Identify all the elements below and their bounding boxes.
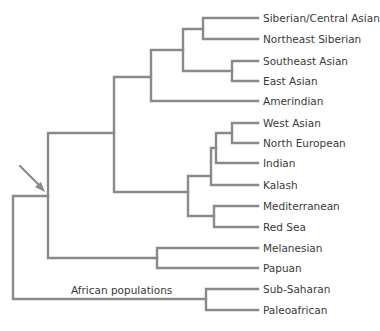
branch-african-clade (206, 289, 258, 310)
leaf-label-paleoafrican: Paleoafrican (263, 304, 327, 316)
branch-east-asian-clade (232, 61, 258, 81)
branch-siberian-clade (203, 18, 258, 39)
branch-west-asian-clade (232, 123, 258, 143)
branch-oceanian-clade (157, 248, 258, 268)
leaf-label-sub-saharan: Sub-Saharan (263, 283, 330, 295)
leaf-label-west-asian: West Asian (263, 117, 321, 129)
african-populations-label: African populations (71, 284, 172, 296)
arrow-icon (20, 166, 45, 192)
leaf-label-north-european: North European (263, 137, 346, 149)
leaf-label-papuan: Papuan (263, 262, 302, 274)
leaf-label-red-sea: Red Sea (263, 221, 306, 233)
leaf-label-siberian-central-asian: Siberian/Central Asian (263, 12, 380, 24)
leaf-label-indian: Indian (263, 157, 295, 169)
leaf-label-southeast-asian: Southeast Asian (263, 55, 348, 67)
leaf-label-kalash: Kalash (263, 179, 298, 191)
leaf-label-melanesian: Melanesian (263, 242, 322, 254)
branch-mediterranean-clade (214, 206, 258, 227)
leaf-label-mediterranean: Mediterranean (263, 200, 340, 212)
branch-indian-node (216, 133, 258, 163)
leaf-label-northeast-siberian: Northeast Siberian (263, 33, 361, 45)
leaf-label-amerindian: Amerindian (263, 95, 323, 107)
leaf-label-east-asian: East Asian (263, 75, 318, 87)
branch-kalash-node (211, 148, 258, 185)
branch-asian-node (183, 29, 232, 71)
branch-out-of-africa-node (48, 133, 157, 258)
branch-asian-amerindian-node (151, 50, 258, 101)
